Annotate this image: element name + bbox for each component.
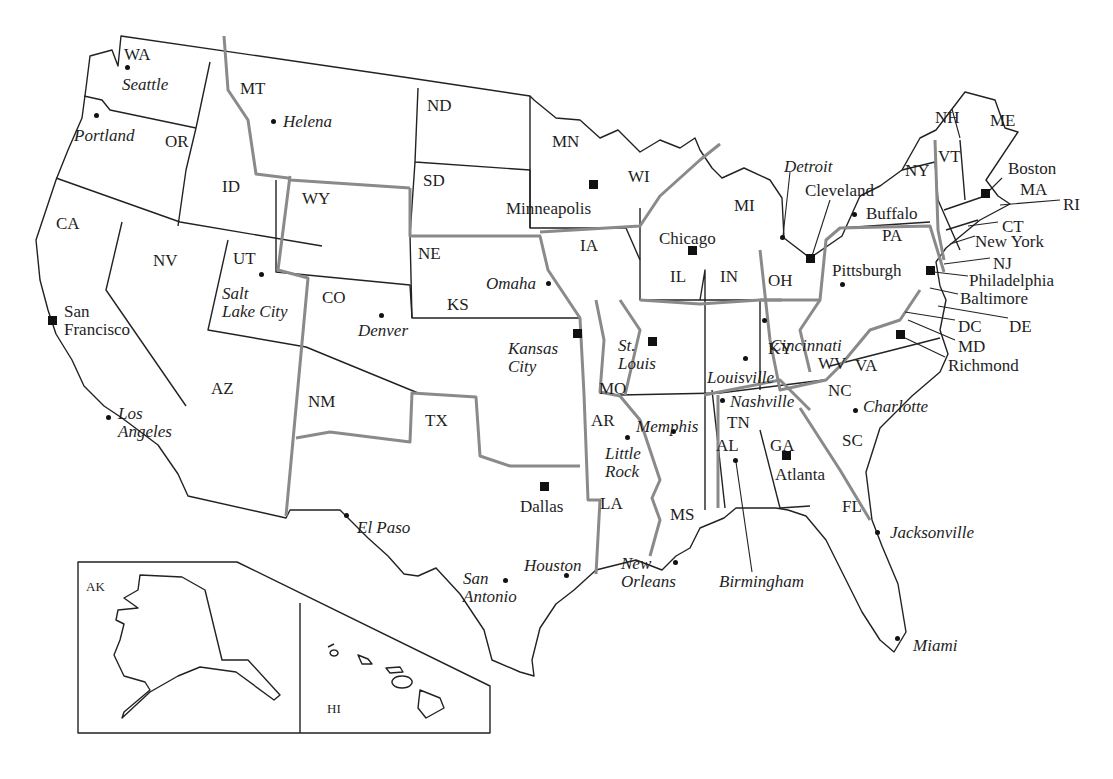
city-label-nashville: Nashville — [730, 393, 794, 411]
state-label-mt: MT — [240, 80, 266, 98]
city-dot-icon-charlotte — [853, 408, 858, 413]
state-label-id: ID — [222, 178, 240, 196]
city-label-buffalo: Buffalo — [866, 205, 918, 223]
city-dot-icon-memphis — [671, 429, 676, 434]
city-dot-icon-birmingham — [733, 458, 738, 463]
city-square-icon-boston — [981, 189, 990, 198]
state-label-ms: MS — [670, 506, 695, 524]
state-label-wy: WY — [302, 190, 330, 208]
city-label-birmingham: Birmingham — [719, 573, 804, 591]
state-label-or: OR — [165, 133, 189, 151]
state-label-ks: KS — [447, 296, 469, 314]
city-label-seattle: Seattle — [122, 76, 168, 94]
state-label-dc: DC — [958, 318, 982, 336]
city-label-san-francisco: San Francisco — [64, 303, 130, 339]
city-square-icon-philadelphia — [926, 266, 935, 275]
city-label-pittsburgh: Pittsburgh — [832, 262, 902, 280]
state-label-al: AL — [716, 437, 739, 455]
state-label-nh: NH — [935, 109, 960, 127]
city-label-baltimore: Baltimore — [960, 290, 1028, 308]
city-dot-icon-los-angeles — [106, 415, 111, 420]
city-label-jacksonville: Jacksonville — [890, 524, 974, 542]
state-label-in: IN — [720, 268, 738, 286]
city-label-kansas-city: Kansas City — [508, 340, 558, 376]
city-dot-icon-nashville — [720, 398, 725, 403]
city-dot-icon-salt-lake-city — [259, 272, 264, 277]
state-label-vt: VT — [938, 148, 961, 166]
city-label-houston: Houston — [524, 557, 582, 575]
state-label-md: MD — [958, 338, 985, 356]
city-dot-icon-pittsburgh — [840, 282, 845, 287]
us-map: WAORCAIDMTWYNVUTCOAZNMTXNDSDNEKSMNIAMOAR… — [0, 0, 1113, 779]
city-label-el-paso: El Paso — [357, 519, 410, 537]
state-label-va: VA — [855, 357, 877, 375]
city-square-icon-chicago — [688, 246, 697, 255]
city-dot-icon-jacksonville — [875, 530, 880, 535]
state-label-ny: NY — [905, 162, 930, 180]
city-dot-icon-miami — [895, 636, 900, 641]
city-square-icon-cleveland — [806, 254, 815, 263]
state-label-pa: PA — [882, 227, 902, 245]
state-label-la: LA — [600, 495, 623, 513]
state-label-wi: WI — [628, 168, 650, 186]
state-label-de: DE — [1009, 318, 1032, 336]
city-label-salt-lake-city: Salt Lake City — [222, 285, 288, 321]
city-dot-icon-little-rock — [625, 435, 630, 440]
state-label-sc: SC — [842, 432, 863, 450]
state-label-fl: FL — [842, 498, 862, 516]
city-dot-icon-el-paso — [344, 513, 349, 518]
state-label-wv: WV — [818, 355, 846, 373]
city-square-icon-san-francisco — [48, 316, 57, 325]
state-label-ma: MA — [1020, 181, 1047, 199]
state-label-il: IL — [670, 268, 686, 286]
city-label-philadelphia: Philadelphia — [969, 272, 1054, 290]
city-square-icon-st.-louis — [648, 337, 657, 346]
city-label-san-antonio: San Antonio — [463, 570, 517, 606]
city-dot-icon-san-antonio — [503, 578, 508, 583]
state-label-nv: NV — [153, 252, 178, 270]
city-dot-icon-louisville — [743, 356, 748, 361]
city-label-charlotte: Charlotte — [863, 398, 928, 416]
state-label-wa: WA — [124, 46, 150, 64]
state-label-ak: AK — [86, 580, 105, 594]
alaska-shape — [114, 575, 280, 718]
city-dot-icon-seattle — [125, 65, 130, 70]
city-label-helena: Helena — [283, 113, 332, 131]
state-label-nc: NC — [828, 382, 852, 400]
state-label-sd: SD — [423, 172, 445, 190]
state-label-co: CO — [322, 289, 346, 307]
state-label-mn: MN — [552, 133, 579, 151]
city-label-louisville: Louisville — [707, 369, 774, 387]
city-square-icon-dallas — [540, 482, 549, 491]
state-label-ut: UT — [233, 250, 256, 268]
state-label-ca: CA — [56, 215, 80, 233]
city-label-detroit: Detroit — [784, 158, 832, 176]
city-dot-icon-omaha — [546, 281, 551, 286]
state-label-ne: NE — [418, 245, 441, 263]
state-label-nd: ND — [427, 97, 452, 115]
state-label-me: ME — [990, 112, 1016, 130]
city-dot-icon-portland — [94, 113, 99, 118]
state-label-mi: MI — [734, 197, 755, 215]
city-dot-icon-denver — [379, 313, 384, 318]
city-dot-icon-new-orleans — [673, 560, 678, 565]
city-label-atlanta: Atlanta — [775, 466, 825, 484]
city-square-icon-kansas-city — [573, 329, 582, 338]
city-label-little-rock: Little Rock — [605, 445, 641, 481]
city-dot-icon-helena — [271, 119, 276, 124]
city-label-new-york: New York — [975, 233, 1044, 251]
state-label-mo: MO — [599, 380, 626, 398]
city-square-icon-minneapolis — [589, 180, 598, 189]
city-dot-icon-cincinnati — [762, 318, 767, 323]
inset-frame — [78, 562, 490, 733]
city-dot-icon-buffalo — [852, 212, 857, 217]
city-label-new-orleans: New Orleans — [621, 555, 676, 591]
city-label-richmond: Richmond — [948, 357, 1019, 375]
city-label-miami: Miami — [913, 637, 957, 655]
city-dot-icon-houston — [564, 573, 569, 578]
city-label-minneapolis: Minneapolis — [506, 200, 591, 218]
city-dot-icon-detroit — [780, 235, 785, 240]
state-label-tx: TX — [425, 412, 448, 430]
state-label-ar: AR — [591, 412, 615, 430]
state-label-az: AZ — [211, 380, 234, 398]
